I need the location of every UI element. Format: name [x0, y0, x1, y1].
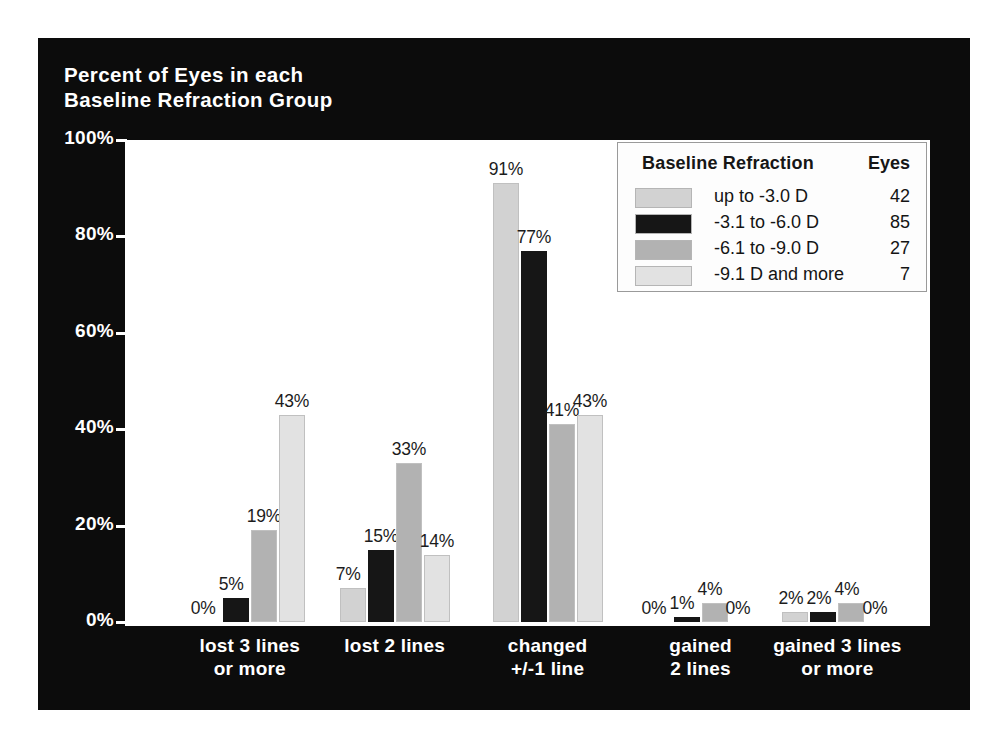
legend-label: up to -3.0 D: [714, 186, 808, 207]
bar: [838, 603, 864, 622]
bar-value-label: 0%: [726, 598, 751, 619]
bar: [368, 550, 394, 622]
y-axis-tick-label: 80%: [40, 223, 114, 245]
y-axis-tick-label: 60%: [40, 320, 114, 342]
legend-eyes-count: 7: [876, 264, 910, 285]
plot-area: 0%5%19%43%7%15%33%14%91%77%41%43%0%1%4%0…: [125, 140, 930, 622]
bar-value-label: 4%: [698, 579, 723, 600]
legend-label: -9.1 D and more: [714, 264, 844, 285]
bar-value-label: 7%: [336, 564, 361, 585]
legend-swatch: [635, 214, 692, 234]
bar-value-label: 43%: [275, 391, 309, 412]
bar: [424, 555, 450, 622]
bar: [810, 612, 836, 622]
slide-canvas: Percent of Eyes in each Baseline Refract…: [38, 38, 970, 710]
legend-row: -3.1 to -6.0 D85: [618, 211, 926, 237]
legend-eyes-count: 42: [876, 186, 910, 207]
bar-value-label: 4%: [834, 579, 859, 600]
bar: [493, 183, 519, 622]
bar: [340, 588, 366, 622]
bar-value-label: 1%: [670, 593, 695, 614]
bar-value-label: 19%: [247, 506, 281, 527]
chart-title: Percent of Eyes in each Baseline Refract…: [64, 62, 624, 112]
bar-value-label: 33%: [392, 439, 426, 460]
legend-row: -6.1 to -9.0 D27: [618, 237, 926, 263]
legend-row: up to -3.0 D42: [618, 185, 926, 211]
y-axis-tick-label: 0%: [40, 609, 114, 631]
legend-label: -3.1 to -6.0 D: [714, 212, 819, 233]
bar: [577, 415, 603, 622]
y-axis-tick-label: 40%: [40, 416, 114, 438]
bar-value-label: 2%: [778, 588, 803, 609]
bar: [782, 612, 808, 622]
legend-swatch: [635, 188, 692, 208]
bar-group: 91%77%41%43%: [493, 140, 603, 622]
y-axis-tick-label: 100%: [40, 127, 114, 149]
bar: [521, 251, 547, 622]
legend-label: -6.1 to -9.0 D: [714, 238, 819, 259]
bar: [549, 424, 575, 622]
bar-value-label: 91%: [489, 159, 523, 180]
bar-value-label: 43%: [573, 391, 607, 412]
bar: [702, 603, 728, 622]
bar-value-label: 2%: [806, 588, 831, 609]
legend-swatch: [635, 240, 692, 260]
bar-group: 7%15%33%14%: [340, 140, 450, 622]
legend-eyes-header: Eyes: [868, 153, 910, 174]
bar: [396, 463, 422, 622]
legend-eyes-count: 27: [876, 238, 910, 259]
bar: [223, 598, 249, 622]
bar-value-label: 77%: [517, 227, 551, 248]
bar-group: 0%5%19%43%: [195, 140, 305, 622]
x-axis-category-label: gained 3 lines or more: [747, 634, 927, 680]
legend-eyes-count: 85: [876, 212, 910, 233]
bar-value-label: 0%: [191, 598, 216, 619]
bar: [251, 530, 277, 622]
bar-value-label: 0%: [862, 598, 887, 619]
bar-value-label: 14%: [420, 531, 454, 552]
x-axis-line: [125, 622, 930, 626]
bar: [279, 415, 305, 622]
y-axis-tick-label: 20%: [40, 513, 114, 535]
bar-value-label: 0%: [642, 598, 667, 619]
chart-legend: Baseline Refraction Eyes up to -3.0 D42-…: [617, 142, 927, 292]
legend-swatch: [635, 266, 692, 286]
bar-value-label: 5%: [219, 574, 244, 595]
legend-title: Baseline Refraction: [642, 153, 814, 174]
legend-header: Baseline Refraction Eyes: [618, 153, 926, 177]
bar-value-label: 15%: [364, 526, 398, 547]
legend-row: -9.1 D and more7: [618, 263, 926, 289]
